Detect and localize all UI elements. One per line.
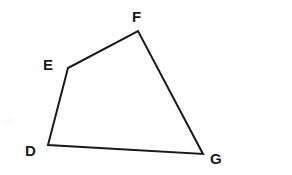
vertex-label-g: G	[210, 151, 222, 166]
quadrilateral-svg	[0, 0, 292, 175]
vertex-label-e: E	[43, 57, 53, 72]
quadrilateral-shape	[48, 31, 203, 154]
vertex-label-d: D	[25, 143, 36, 158]
geometry-figure: D E F G	[0, 0, 292, 175]
vertex-label-f: F	[132, 9, 141, 24]
scan-artifact	[5, 118, 13, 125]
